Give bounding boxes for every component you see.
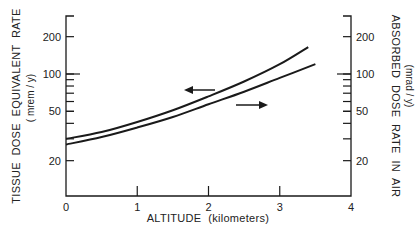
left-arrow-icon xyxy=(184,86,193,94)
right-tick-label: 50 xyxy=(356,105,368,117)
left-axis-title-group: TISSUE DOSE EQUIVALENT RATE ( mrem / y) xyxy=(10,8,36,203)
right-axis-title: ABSORBED DOSE RATE IN AIR xyxy=(390,15,402,198)
x-tick-label: 0 xyxy=(63,201,69,213)
left-tick-label: 200 xyxy=(43,31,61,43)
tissue-dose-curve xyxy=(66,47,308,139)
right-tick-label: 200 xyxy=(356,31,374,43)
right-arrow-icon xyxy=(259,101,268,109)
left-tick-label: 100 xyxy=(43,68,61,80)
right-axis-title-group: ABSORBED DOSE RATE IN AIR (mrad / y) xyxy=(390,15,415,198)
left-tick-label: 50 xyxy=(49,105,61,117)
ticks xyxy=(66,37,351,196)
x-tick-label: 4 xyxy=(348,201,354,213)
x-axis-title: ALTITUDE (kilometers) xyxy=(147,212,270,224)
right-axis-unit: (mrad / y) xyxy=(404,65,415,108)
axis-frame xyxy=(66,16,351,196)
right-tick-label: 100 xyxy=(356,68,374,80)
dose-rate-chart: 0123420501002002050100200 ALTITUDE (kilo… xyxy=(0,0,418,235)
left-tick-label: 20 xyxy=(49,155,61,167)
axes xyxy=(66,16,351,196)
right-tick-label: 20 xyxy=(356,155,368,167)
data-curves xyxy=(66,47,315,144)
left-axis-title: TISSUE DOSE EQUIVALENT RATE xyxy=(10,8,22,203)
x-tick-label: 1 xyxy=(134,201,140,213)
tick-labels: 0123420501002002050100200 xyxy=(43,31,375,213)
left-axis-unit: ( mrem / y) xyxy=(25,74,36,122)
x-tick-label: 3 xyxy=(277,201,283,213)
